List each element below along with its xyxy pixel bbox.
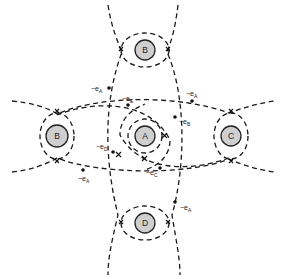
svg-text:A: A	[142, 131, 148, 141]
electron-label-eb: −eB	[179, 118, 191, 127]
orbit-left-vertical	[108, 5, 122, 275]
diagram-canvas: B B A C D −eA −eE −eA −eB −eD −eC −eA −e…	[0, 0, 285, 279]
atom-a: A	[135, 126, 155, 146]
svg-text:B: B	[54, 131, 60, 141]
atom-b-top: B	[135, 40, 155, 60]
orbit-right-vertical	[167, 5, 182, 275]
electron-label-ee: −eE	[122, 95, 134, 104]
electron-label-ea-bottom-right: −eA	[180, 204, 192, 213]
electron-label-ed: −eD	[96, 143, 108, 152]
electron-sharing-diagram: B B A C D −eA −eE −eA −eB −eD −eC −eA −e…	[0, 0, 285, 279]
svg-text:C: C	[228, 131, 234, 141]
electron-label-ea-top-right: −eA	[186, 90, 198, 99]
electron-label-ea-top-left: −eA	[91, 85, 103, 94]
electron-label-ea-bottom-left: −eA	[78, 175, 90, 184]
atom-d: D	[135, 213, 155, 233]
svg-text:D: D	[142, 218, 148, 228]
svg-text:B: B	[142, 45, 148, 55]
atom-c: C	[221, 126, 241, 146]
orbit-upper-horizontal	[12, 100, 275, 114]
atom-b-left: B	[46, 125, 68, 147]
